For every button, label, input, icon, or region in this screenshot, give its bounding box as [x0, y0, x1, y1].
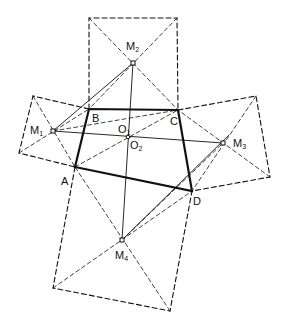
square-diagonals: [19, 18, 270, 311]
label-b: B: [92, 113, 99, 124]
label-o1: O1: [118, 124, 130, 136]
label-d: D: [193, 196, 201, 207]
label-m4: M4: [115, 250, 128, 262]
label-o2: O2: [130, 140, 142, 152]
label-a: A: [61, 176, 68, 187]
outer-squares: [19, 18, 270, 311]
diagram: M2 M1 M3 M4 B C A D O1 O2: [0, 0, 285, 330]
label-m3: M3: [233, 138, 246, 150]
geometry-figure: [0, 0, 285, 330]
label-m2: M2: [126, 41, 139, 53]
label-c: C: [170, 116, 178, 127]
label-m1: M1: [30, 125, 43, 137]
